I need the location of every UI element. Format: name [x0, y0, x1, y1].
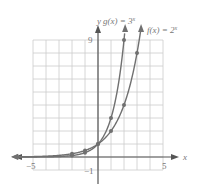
- data-point: [109, 129, 113, 133]
- data-point: [122, 103, 126, 107]
- x-axis-right-arrow-icon: [171, 154, 179, 160]
- data-point: [135, 51, 139, 55]
- curve-g: [14, 33, 125, 157]
- y-axis-label: y: [96, 16, 101, 26]
- data-point: [122, 38, 126, 42]
- axes: [14, 25, 179, 184]
- g-curve-label: g(x) = 3x: [103, 16, 136, 26]
- x-axis-label: x: [182, 152, 187, 162]
- data-point: [109, 116, 113, 120]
- x-min-tick-label: −5: [26, 161, 36, 171]
- x-max-tick-label: 5: [162, 161, 167, 171]
- curve-arrow-icon: [138, 24, 144, 32]
- data-point: [96, 142, 100, 146]
- exponential-graph: x y −5 5 9 −1 g(x) = 3x f(x) = 2x: [0, 0, 198, 194]
- y-min-tick-label: −1: [84, 166, 94, 176]
- y-axis-up-arrow-icon: [95, 25, 101, 33]
- y-max-tick-label: 9: [88, 35, 93, 45]
- data-point: [83, 149, 87, 153]
- f-curve-label: f(x) = 2x: [147, 25, 178, 35]
- data-point: [70, 152, 74, 156]
